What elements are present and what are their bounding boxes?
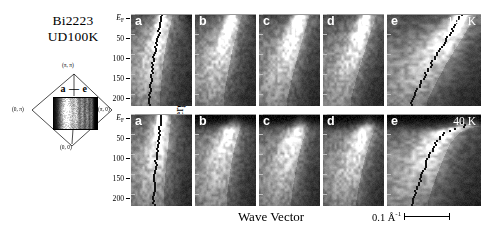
panel-inner-tick xyxy=(387,134,391,135)
panel-inner-tick xyxy=(323,174,327,175)
panel-inner-tick xyxy=(259,134,263,135)
y-axis-bottom: EF50100150200 xyxy=(100,114,130,206)
panel-inner-tick xyxy=(195,154,199,155)
arpes-panel-40K-c[interactable]: c xyxy=(259,114,320,206)
panel-inner-tick xyxy=(259,94,263,95)
arpes-panel-140K-e[interactable]: e140 K xyxy=(387,14,481,106)
bz-inset-canvas xyxy=(54,98,97,129)
panel-inner-tick xyxy=(131,54,135,55)
arpes-panel-40K-d[interactable]: d xyxy=(323,114,384,206)
panel-inner-tick xyxy=(323,134,327,135)
temperature-label: 140 K xyxy=(448,14,476,28)
y-tick-label: 50 xyxy=(116,34,124,43)
panel-inner-tick xyxy=(387,194,391,195)
panel-inner-tick xyxy=(259,54,263,55)
panel-inner-tick xyxy=(387,34,391,35)
y-tick-label: EF xyxy=(116,113,124,124)
panel-row-140k: abcde140 K xyxy=(131,14,481,106)
arpes-panel-140K-a[interactable]: a xyxy=(131,14,192,106)
y-tick-label: 100 xyxy=(113,154,124,163)
panel-label-b: b xyxy=(199,114,207,128)
panel-inner-tick xyxy=(387,174,391,175)
panel-inner-tick xyxy=(131,94,135,95)
arpes-panel-40K-b[interactable]: b xyxy=(195,114,256,206)
panel-inner-tick xyxy=(195,174,199,175)
panel-inner-tick xyxy=(259,74,263,75)
panel-inner-tick xyxy=(195,74,199,75)
y-tick-label: 150 xyxy=(113,174,124,183)
y-tick-label: 100 xyxy=(113,54,124,63)
panel-row-40k: abcde40 K xyxy=(131,114,481,206)
panel-inner-tick xyxy=(259,174,263,175)
panel-label-a: a xyxy=(135,114,142,128)
panel-inner-tick xyxy=(323,154,327,155)
panel-inner-tick xyxy=(131,154,135,155)
panel-inner-tick xyxy=(387,154,391,155)
panel-inner-tick xyxy=(323,54,327,55)
panel-inner-tick xyxy=(195,34,199,35)
panel-inner-tick xyxy=(131,174,135,175)
scale-bar: 0.1 Å-1 xyxy=(372,210,450,223)
panel-inner-tick xyxy=(259,154,263,155)
panel-inner-tick xyxy=(387,74,391,75)
bz-label-pi-pi: (π, π) xyxy=(62,62,74,68)
panel-label-a: a xyxy=(135,14,142,28)
arpes-panel-140K-d[interactable]: d xyxy=(323,14,384,106)
panel-inner-tick xyxy=(259,34,263,35)
panel-inner-tick xyxy=(387,94,391,95)
y-axis-top: EF50100150200 xyxy=(100,14,130,106)
bz-inset-image xyxy=(53,97,98,130)
panel-inner-tick xyxy=(131,74,135,75)
panel-inner-tick xyxy=(131,34,135,35)
bz-label-0-0: (0, 0) xyxy=(60,144,72,150)
y-tick-label: 200 xyxy=(113,194,124,203)
panel-inner-tick xyxy=(131,134,135,135)
y-tick-label: 150 xyxy=(113,74,124,83)
panel-label-c: c xyxy=(263,114,270,128)
panel-inner-tick xyxy=(195,134,199,135)
panel-label-e: e xyxy=(391,14,398,28)
scale-bar-label: 0.1 Å-1 xyxy=(372,210,401,223)
panel-inner-tick xyxy=(131,194,135,195)
y-tick-label: 200 xyxy=(113,94,124,103)
x-axis-title: Wave Vector xyxy=(196,209,346,225)
arpes-panel-40K-a[interactable]: a xyxy=(131,114,192,206)
arpes-panel-140K-b[interactable]: b xyxy=(195,14,256,106)
temperature-label: 40 K xyxy=(453,114,476,128)
panel-inner-tick xyxy=(323,34,327,35)
panel-label-d: d xyxy=(327,114,335,128)
y-tick-label: EF xyxy=(116,13,124,24)
panel-label-b: b xyxy=(199,14,207,28)
panel-inner-tick xyxy=(195,54,199,55)
panel-inner-tick xyxy=(323,94,327,95)
panel-inner-tick xyxy=(195,94,199,95)
panel-label-e: e xyxy=(391,114,398,128)
panel-label-d: d xyxy=(327,14,335,28)
arpes-panel-140K-c[interactable]: c xyxy=(259,14,320,106)
panel-inner-tick xyxy=(259,194,263,195)
panel-label-c: c xyxy=(263,14,270,28)
scale-bar-line xyxy=(404,213,450,220)
bz-label-0-pi: (0, π) xyxy=(12,106,24,112)
arpes-panel-40K-e[interactable]: e40 K xyxy=(387,114,481,206)
panel-inner-tick xyxy=(387,54,391,55)
y-tick-label: 50 xyxy=(116,134,124,143)
panel-inner-tick xyxy=(323,74,327,75)
panel-inner-tick xyxy=(323,194,327,195)
panel-inner-tick xyxy=(195,194,199,195)
